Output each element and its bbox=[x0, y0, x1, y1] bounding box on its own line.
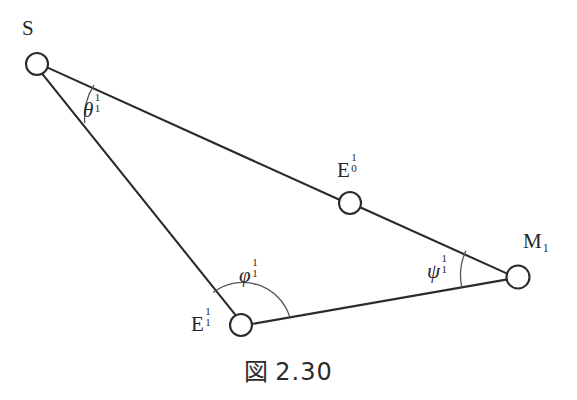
angle-arc-psi bbox=[461, 251, 466, 287]
angle-label-psi-glyph: ψ bbox=[427, 259, 440, 283]
figure-caption: 図2.30 bbox=[0, 352, 577, 387]
angle-label-phi: φ11 bbox=[239, 262, 258, 286]
angle-label-psi-index: 11 bbox=[442, 253, 448, 275]
edge-group bbox=[43, 68, 508, 324]
angle-label-theta: θ11 bbox=[83, 97, 100, 121]
node-label-e0-index: 10 bbox=[351, 152, 357, 174]
angle-label-phi-subscript: 1 bbox=[252, 268, 258, 279]
figure-page: S E10 M1 E11 θ11 ψ11 φ11 図2.30 bbox=[0, 0, 577, 400]
node-label-e1: E11 bbox=[191, 311, 211, 335]
angle-label-phi-index: 11 bbox=[252, 257, 258, 279]
node-label-e0-base: E bbox=[337, 158, 350, 182]
node-circle-m1[interactable] bbox=[507, 266, 530, 289]
edge-m1-to-e1 bbox=[252, 280, 506, 324]
node-label-e1-base: E bbox=[191, 312, 204, 336]
angle-label-psi-subscript: 1 bbox=[442, 264, 448, 275]
node-label-m1: M1 bbox=[523, 231, 549, 252]
node-label-m1-subscript: 1 bbox=[543, 241, 549, 255]
node-circle-s[interactable] bbox=[26, 53, 48, 75]
node-label-e1-index: 11 bbox=[205, 306, 211, 328]
edge-e1-to-s bbox=[43, 74, 236, 314]
figure-caption-mark: 図 bbox=[244, 358, 269, 386]
figure-caption-number: 2.30 bbox=[275, 358, 332, 386]
node-circle-e1[interactable] bbox=[230, 314, 252, 336]
angle-arc-group bbox=[84, 85, 465, 316]
node-label-e1-subscript: 1 bbox=[205, 317, 211, 328]
angle-arc-phi bbox=[213, 282, 289, 316]
node-label-s-base: S bbox=[22, 16, 34, 40]
geometry-diagram bbox=[0, 0, 577, 400]
node-label-e0-subscript: 0 bbox=[351, 163, 357, 174]
angle-label-theta-subscript: 1 bbox=[95, 103, 101, 114]
angle-label-phi-glyph: φ bbox=[239, 263, 251, 287]
angle-label-psi: ψ11 bbox=[427, 258, 447, 282]
node-label-e0: E10 bbox=[337, 157, 357, 181]
node-circle-group bbox=[26, 53, 530, 336]
node-label-m1-base: M bbox=[523, 229, 542, 253]
angle-label-theta-glyph: θ bbox=[83, 98, 93, 122]
node-circle-e0[interactable] bbox=[339, 192, 361, 214]
node-label-s: S bbox=[22, 18, 34, 39]
angle-label-theta-index: 11 bbox=[95, 92, 101, 114]
